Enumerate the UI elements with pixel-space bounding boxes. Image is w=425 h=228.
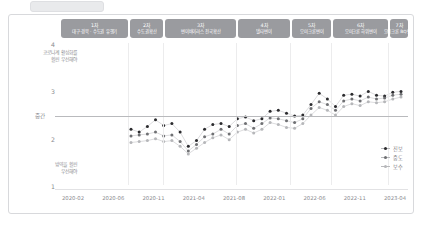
legend-item-보수[interactable]: 보수 (381, 162, 403, 171)
phase-badge-6[interactable]: 6차오미크론 하위변이 (333, 19, 388, 38)
phase-divider-gridline (128, 43, 129, 185)
data-point (400, 93, 403, 96)
data-point (301, 122, 304, 125)
legend-label: 보수 (393, 163, 403, 170)
data-point (400, 90, 403, 93)
data-point (252, 132, 255, 135)
data-point (310, 107, 313, 110)
data-point (334, 105, 337, 108)
x-axis-line (55, 189, 408, 190)
y-axis-tick: 1 (39, 183, 55, 190)
data-point (293, 121, 296, 124)
data-point (359, 104, 362, 107)
phase-badge-3[interactable]: 3차변이바이러스 전국확산 (165, 19, 236, 38)
phase-badge-4[interactable]: 4차델타변이 (238, 19, 290, 38)
data-point (228, 125, 231, 128)
data-point (367, 90, 370, 93)
data-point (220, 122, 223, 125)
phase-badge-number: 5차 (308, 23, 315, 29)
data-point (244, 128, 247, 131)
data-point (285, 112, 288, 115)
data-point (367, 100, 370, 103)
data-point (326, 109, 329, 112)
data-point (228, 133, 231, 136)
data-point (195, 147, 198, 150)
data-point (187, 150, 190, 153)
x-axis-tick: 2023-04 (373, 195, 414, 201)
data-point (252, 127, 255, 130)
data-point (195, 143, 198, 146)
chart-legend: 진보중도보수 (381, 144, 403, 171)
x-axis-tick: 2022-11 (333, 195, 377, 201)
phase-badge-description: 델타변이 (256, 29, 271, 34)
phase-badge-2[interactable]: 2차수도권확산 (130, 19, 163, 38)
data-point (359, 99, 362, 102)
data-point (383, 100, 386, 103)
axis-note-bottom-left: 방역을 훨씬 우선해야 (15, 161, 77, 176)
legend-marker-icon (381, 144, 390, 153)
data-point (391, 91, 394, 94)
phase-badge-1[interactable]: 1차대구·경북 · 수도권 유행기 (61, 19, 128, 38)
data-point (342, 99, 345, 102)
axis-note-bottom-left-line1: 방역을 훨씬 (15, 161, 77, 168)
tab-stub[interactable] (30, 1, 104, 12)
legend-item-진보[interactable]: 진보 (381, 144, 403, 153)
data-point (375, 98, 378, 101)
data-point (179, 131, 182, 134)
data-point (170, 133, 173, 136)
data-point (383, 97, 386, 100)
data-point (342, 94, 345, 97)
axis-note-top-left-line2: 훨씬 우선해야 (15, 56, 77, 63)
data-point (310, 103, 313, 106)
data-point (154, 137, 157, 140)
data-point (260, 128, 263, 131)
data-point (350, 98, 353, 101)
data-point (146, 133, 149, 136)
data-point (391, 98, 394, 101)
data-point (375, 94, 378, 97)
x-axis-tick: 2021-04 (172, 195, 216, 201)
data-point (277, 117, 280, 120)
phase-divider-gridline (163, 43, 164, 185)
data-point (154, 118, 157, 121)
legend-label: 진보 (393, 145, 403, 152)
phase-badge-description: 변이바이러스 전국확산 (181, 29, 221, 34)
data-point (146, 125, 149, 128)
x-axis-tick: 2021-08 (212, 195, 256, 201)
x-axis-tick: 2020-11 (132, 195, 176, 201)
data-point (285, 119, 288, 122)
data-point (359, 95, 362, 98)
data-point (269, 121, 272, 124)
x-axis-tick: 2022-01 (252, 195, 296, 201)
data-point (211, 133, 214, 136)
phase-badge-5[interactable]: 5차오미크론변이 (292, 19, 331, 38)
data-point (285, 126, 288, 129)
data-point (187, 145, 190, 148)
legend-marker-icon (381, 153, 390, 162)
data-point (326, 98, 329, 101)
data-point (195, 139, 198, 142)
data-point (342, 105, 345, 108)
y-axis-tick: 2 (39, 136, 55, 143)
phase-badge-7[interactable]: 7차오미크론 BQ변이 (390, 19, 408, 38)
y-axis-tick: 4 (39, 41, 55, 48)
data-point (350, 93, 353, 96)
data-point (277, 109, 280, 112)
data-point (367, 96, 370, 99)
data-point (318, 92, 321, 95)
data-point (350, 102, 353, 105)
phase-badge-number: 1차 (91, 23, 98, 29)
data-point (138, 131, 141, 134)
data-point (318, 106, 321, 109)
screenshot-root: 1차대구·경북 · 수도권 유행기2차수도권확산3차변이바이러스 전국확산4차델… (0, 0, 425, 228)
legend-item-중도[interactable]: 중도 (381, 153, 403, 162)
data-point (334, 109, 337, 112)
data-point (252, 119, 255, 122)
phase-badge-number: 7차 (395, 23, 402, 29)
chart-plot-area: 1차대구·경북 · 수도권 유행기2차수도권확산3차변이바이러스 전국확산4차델… (9, 15, 413, 213)
phase-divider-gridline (290, 43, 291, 185)
phase-badge-description: 수도권확산 (137, 29, 156, 34)
chart-card: 1차대구·경북 · 수도권 유행기2차수도권확산3차변이바이러스 전국확산4차델… (8, 14, 414, 214)
data-point (220, 133, 223, 136)
axis-note-bottom-left-line2: 우선해야 (15, 168, 77, 175)
